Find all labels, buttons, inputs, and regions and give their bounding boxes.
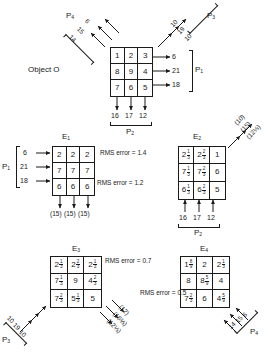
e4-input-label-sub: 4 <box>255 330 258 336</box>
p1-value: 6 <box>172 53 176 60</box>
e3-grid: 213 223 213 713 9 423 723 513 5 <box>50 256 102 308</box>
e1-cell-value: 6 <box>71 183 75 191</box>
p4-label: P4 <box>66 12 74 20</box>
tomography-iteration-figure: Object O 1 2 3 8 9 4 7 6 5 6 21 18 P1 16… <box>0 0 271 353</box>
e1-title: E1 <box>62 133 70 141</box>
p1-value: 21 <box>172 67 180 74</box>
p4-bracket <box>63 34 94 65</box>
object-label: Object O <box>28 66 60 74</box>
object-cell: 4 <box>138 64 152 80</box>
e2-cell-value: 5 <box>215 186 219 194</box>
e4-cell: 859 <box>197 274 213 291</box>
e2-cell: 1 <box>210 147 225 164</box>
e2-input-value: 12 <box>207 214 215 221</box>
e1-cell-value: 2 <box>85 151 89 159</box>
e3-cell: 9 <box>68 274 85 291</box>
e3-cell-value: 513 <box>71 294 80 304</box>
fraction: 13 <box>187 185 191 195</box>
fraction: 23 <box>202 167 206 177</box>
e2-input-label: P2 <box>194 229 202 237</box>
e3-cell-value: 213 <box>88 260 97 270</box>
fraction: 23 <box>202 185 206 195</box>
e4-cell-value: 4 <box>219 277 223 285</box>
e3-cell-value: 5 <box>90 295 94 303</box>
e2-cell: 623 <box>194 182 209 199</box>
e4-cell: 459 <box>213 290 229 307</box>
e4-grid: 189 2 213 8 859 4 723 6 459 <box>180 256 230 308</box>
e3-cell-value: 223 <box>71 260 80 270</box>
e2-grid: 213 223 1 713 723 6 613 623 5 <box>178 146 226 200</box>
fraction: 13 <box>93 260 97 270</box>
p3-label-sub: 3 <box>212 14 215 20</box>
e3-cell: 223 <box>68 257 85 274</box>
e3-cell-value: 713 <box>55 276 64 286</box>
p2-value: 17 <box>125 112 133 119</box>
e1-cell-value: 7 <box>85 167 89 175</box>
e3-input-label-sub: 3 <box>7 338 10 344</box>
fraction: 13 <box>76 294 80 304</box>
e1-input-value: 6 <box>23 149 27 156</box>
object-cell: 3 <box>138 48 152 64</box>
p1-label-sub: 1 <box>200 68 203 74</box>
fraction: 23 <box>202 150 206 160</box>
p4-value: 6 <box>83 18 90 25</box>
e1-output-value: (15) <box>78 211 90 218</box>
fraction: 23 <box>59 294 63 304</box>
e2-input-value: 17 <box>193 214 201 221</box>
fraction: 13 <box>222 260 226 270</box>
e1-cell: 7 <box>67 163 81 179</box>
e2-cell: 5 <box>210 182 225 199</box>
p4-value: 15 <box>75 26 85 36</box>
p4-label-sub: 4 <box>71 14 74 20</box>
e2-cell-value: 613 <box>182 185 191 195</box>
e2-input-value: 16 <box>179 214 187 221</box>
fraction: 23 <box>93 276 97 286</box>
p3-label: P3 <box>207 12 215 20</box>
e3-cell: 713 <box>51 274 68 291</box>
p2-label: P2 <box>126 128 134 136</box>
e2-title-sub: 2 <box>198 135 201 141</box>
e4-input-label: P4 <box>250 328 258 336</box>
fraction: 89 <box>189 260 193 270</box>
e2-cell-value: 1 <box>215 151 219 159</box>
object-cell: 1 <box>111 48 125 64</box>
object-cell: 2 <box>125 48 139 64</box>
e4-cell-value: 2 <box>202 261 206 269</box>
p1-value: 18 <box>172 81 180 88</box>
p1-bracket <box>189 50 193 92</box>
p3-value: 10 <box>183 33 193 43</box>
e1-cell: 7 <box>80 163 94 179</box>
e1-cell: 7 <box>53 163 67 179</box>
e4-cell-value: 859 <box>200 276 209 286</box>
object-cell: 6 <box>125 80 139 96</box>
e4-cell: 213 <box>213 257 229 274</box>
e2-cell-value: 223 <box>197 150 206 160</box>
e3-cell: 723 <box>51 290 68 307</box>
e1-rms-error: RMS error = 1.4 <box>100 150 146 157</box>
e2-cell-value: 713 <box>182 167 191 177</box>
e4-cell-value: 8 <box>186 277 190 285</box>
fraction: 13 <box>59 260 63 270</box>
e2-cell: 723 <box>194 164 209 181</box>
fraction: 13 <box>187 150 191 160</box>
e2-cell: 6 <box>210 164 225 181</box>
object-cell: 8 <box>111 64 125 80</box>
e3-cell: 513 <box>68 290 85 307</box>
p2-value: 12 <box>139 112 147 119</box>
e1-cell: 2 <box>53 147 67 163</box>
fraction: 59 <box>222 294 226 304</box>
e3-title: E3 <box>72 245 80 253</box>
e3-cell: 213 <box>84 257 101 274</box>
e4-cell-value: 459 <box>217 294 226 304</box>
e1-cell: 2 <box>67 147 81 163</box>
p1-label: P1 <box>195 66 203 74</box>
p2-label-sub: 2 <box>131 130 134 136</box>
e3-rms-error: RMS error = 0.7 <box>105 258 151 265</box>
fraction: 23 <box>76 260 80 270</box>
p2-bracket <box>110 122 152 126</box>
e4-cell: 8 <box>181 274 197 291</box>
e2-cell-value: 723 <box>197 167 206 177</box>
e1-input-label-sub: 1 <box>7 165 10 171</box>
e3-cell-value: 213 <box>55 260 64 270</box>
fraction: 59 <box>205 276 209 286</box>
